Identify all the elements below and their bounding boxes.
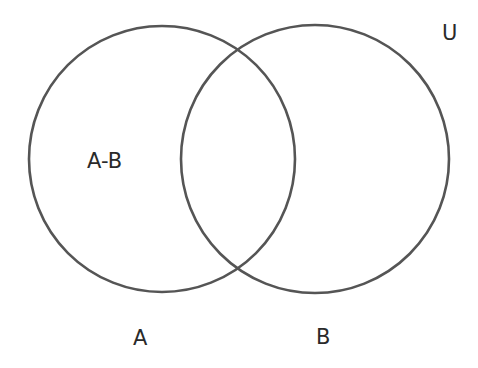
set-a-circle — [29, 26, 295, 292]
difference-region-label: A-B — [87, 149, 122, 173]
set-a-label: A — [133, 326, 148, 350]
set-b-label: B — [316, 325, 330, 349]
universe-label: U — [442, 21, 457, 45]
venn-diagram: U A-B A B — [0, 0, 478, 368]
set-b-circle — [181, 25, 449, 293]
